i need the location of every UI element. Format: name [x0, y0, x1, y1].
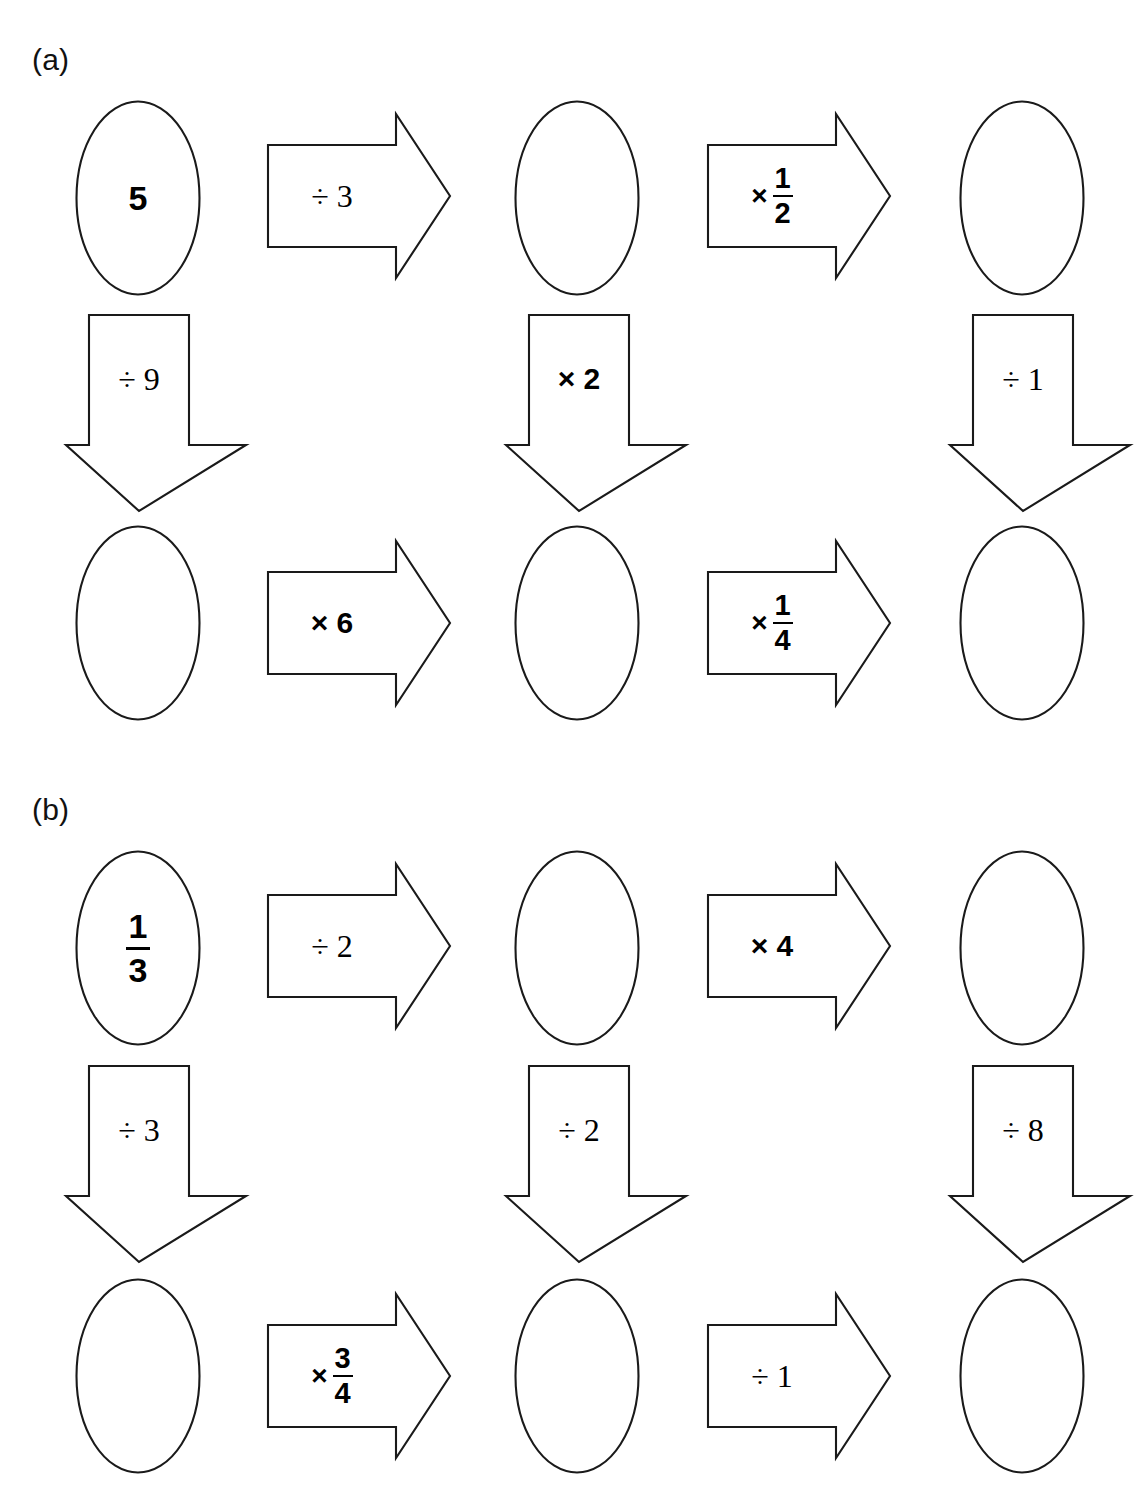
fraction-numerator: 1 — [773, 163, 793, 195]
fraction-one-quarter: 1 4 — [773, 590, 793, 655]
arrow-right-a-bottom-2[interactable]: × 1 4 — [706, 539, 892, 707]
arrow-right-b-top-2[interactable]: × 4 — [706, 862, 892, 1030]
oval-a-r2c3[interactable] — [959, 524, 1085, 722]
arrow-down-a-1-label: ÷ 9 — [89, 313, 189, 445]
fraction-denominator: 2 — [773, 195, 793, 229]
arrow-down-a-3-label: ÷ 1 — [973, 313, 1073, 445]
arrow-down-b-1[interactable]: ÷ 3 — [82, 1064, 250, 1264]
arrow-down-b-1-label: ÷ 3 — [89, 1064, 189, 1196]
oval-a-r1c3[interactable] — [959, 99, 1085, 297]
arrow-right-a-top-1-text: ÷ 3 — [311, 180, 353, 212]
oval-b-r2c1[interactable] — [75, 1277, 201, 1475]
fraction-one-third: 1 3 — [126, 908, 151, 988]
arrow-right-b-bottom-2-label: ÷ 1 — [706, 1292, 838, 1460]
oval-b-r2c2[interactable] — [514, 1277, 640, 1475]
oval-a-r2c2-value — [514, 524, 640, 722]
arrow-right-b-top-2-label: × 4 — [706, 862, 838, 1030]
oval-a-r1c2-value — [514, 99, 640, 297]
arrow-down-b-3-text: ÷ 8 — [1002, 1114, 1044, 1146]
oval-a-r2c1-value — [75, 524, 201, 722]
oval-b-r2c2-value — [514, 1277, 640, 1475]
oval-a-r1c1[interactable]: 5 — [75, 99, 201, 297]
oval-b-r1c1[interactable]: 1 3 — [75, 849, 201, 1047]
arrow-down-a-1-text: ÷ 9 — [118, 363, 160, 395]
oval-a-r2c1[interactable] — [75, 524, 201, 722]
arrow-right-b-bottom-2-text: ÷ 1 — [751, 1360, 793, 1392]
arrow-down-b-3-label: ÷ 8 — [973, 1064, 1073, 1196]
fraction-denominator: 4 — [773, 622, 793, 656]
fraction-numerator: 1 — [773, 590, 793, 622]
arrow-down-b-2-label: ÷ 2 — [529, 1064, 629, 1196]
fraction-one-half: 1 2 — [773, 163, 793, 228]
arrow-right-b-top-1-label: ÷ 2 — [266, 862, 398, 1030]
fraction-numerator: 1 — [126, 908, 151, 947]
oval-a-r1c2[interactable] — [514, 99, 640, 297]
multiply-symbol: × — [311, 1362, 327, 1390]
fraction-numerator: 3 — [333, 1343, 353, 1375]
arrow-right-a-top-1[interactable]: ÷ 3 — [266, 112, 452, 280]
arrow-right-b-top-2-text: × 4 — [751, 931, 794, 961]
fraction-three-quarters: 3 4 — [333, 1343, 353, 1408]
oval-b-r2c1-value — [75, 1277, 201, 1475]
arrow-right-b-bottom-1[interactable]: × 3 4 — [266, 1292, 452, 1460]
multiply-symbol: × — [751, 182, 767, 210]
arrow-down-b-1-text: ÷ 3 — [118, 1114, 160, 1146]
oval-b-r2c3-value — [959, 1277, 1085, 1475]
oval-b-r1c3-value — [959, 849, 1085, 1047]
oval-b-r2c3[interactable] — [959, 1277, 1085, 1475]
fraction-denominator: 4 — [333, 1375, 353, 1409]
arrow-right-a-bottom-2-label: × 1 4 — [706, 539, 838, 707]
oval-a-r1c1-value: 5 — [75, 99, 201, 297]
oval-a-r2c3-value — [959, 524, 1085, 722]
arrow-down-a-1[interactable]: ÷ 9 — [82, 313, 250, 513]
arrow-down-a-2-label: × 2 — [529, 313, 629, 445]
arrow-down-a-2[interactable]: × 2 — [522, 313, 690, 513]
oval-a-r2c2[interactable] — [514, 524, 640, 722]
arrow-down-b-2-text: ÷ 2 — [558, 1114, 600, 1146]
arrow-right-a-bottom-1[interactable]: × 6 — [266, 539, 452, 707]
arrow-right-a-top-1-label: ÷ 3 — [266, 112, 398, 280]
arrow-down-a-3[interactable]: ÷ 1 — [966, 313, 1134, 513]
oval-b-r1c2[interactable] — [514, 849, 640, 1047]
arrow-right-a-top-2-label: × 1 2 — [706, 112, 838, 280]
section-label-b: (b) — [32, 795, 69, 825]
fraction-denominator: 3 — [126, 947, 151, 989]
arrow-right-b-bottom-1-label: × 3 4 — [266, 1292, 398, 1460]
arrow-right-a-top-2[interactable]: × 1 2 — [706, 112, 892, 280]
section-label-a: (a) — [32, 45, 69, 75]
arrow-right-b-bottom-2[interactable]: ÷ 1 — [706, 1292, 892, 1460]
arrow-down-a-3-text: ÷ 1 — [1002, 363, 1044, 395]
arrow-down-b-3[interactable]: ÷ 8 — [966, 1064, 1134, 1264]
oval-a-r1c3-value — [959, 99, 1085, 297]
arrow-down-a-2-text: × 2 — [558, 364, 601, 394]
arrow-down-b-2[interactable]: ÷ 2 — [522, 1064, 690, 1264]
arrow-right-a-bottom-1-label: × 6 — [266, 539, 398, 707]
multiply-symbol: × — [751, 609, 767, 637]
arrow-right-b-top-1-text: ÷ 2 — [311, 930, 353, 962]
oval-b-r1c2-value — [514, 849, 640, 1047]
arrow-right-b-top-1[interactable]: ÷ 2 — [266, 862, 452, 1030]
arrow-right-a-bottom-1-text: × 6 — [311, 608, 354, 638]
oval-b-r1c1-value: 1 3 — [75, 849, 201, 1047]
oval-b-r1c3[interactable] — [959, 849, 1085, 1047]
